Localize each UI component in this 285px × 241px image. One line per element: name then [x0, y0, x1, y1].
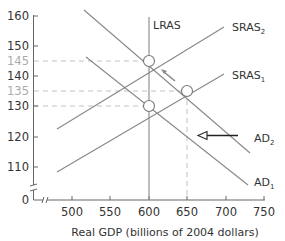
aggregate-supply-demand-chart: 160 150 145 140 135 130 120 110 0 500 55… — [0, 0, 285, 241]
x-tick-labels: 500 550 600 650 700 750 — [61, 205, 275, 219]
equilibrium-600-145 — [144, 56, 155, 67]
guide-lines — [34, 61, 187, 200]
label-lras: LRAS — [153, 19, 181, 32]
x-tick-650: 650 — [176, 205, 198, 219]
y-tick-labels: 160 150 145 140 135 130 120 110 0 — [7, 9, 29, 207]
y-tick-135: 135 — [7, 84, 29, 98]
x-tick-700: 700 — [215, 205, 237, 219]
equilibrium-650-135 — [182, 86, 193, 97]
y-tick-0: 0 — [22, 193, 29, 207]
sras1-line — [57, 74, 224, 172]
sras2-line — [57, 27, 224, 129]
label-sras2: SRAS2 — [232, 21, 265, 36]
y-tick-120: 120 — [7, 130, 29, 144]
y-tick-150: 150 — [7, 39, 29, 53]
label-sras1: SRAS1 — [232, 69, 265, 84]
hollow-arrowhead-icon — [198, 132, 207, 140]
shift-arrow — [198, 132, 238, 140]
y-tick-110: 110 — [7, 160, 29, 174]
x-tick-750: 750 — [253, 205, 275, 219]
label-ad2: AD2 — [254, 132, 274, 147]
x-tick-500: 500 — [61, 205, 83, 219]
ad1-line — [86, 57, 248, 185]
y-tick-130: 130 — [7, 99, 29, 113]
x-tick-550: 550 — [99, 205, 121, 219]
y-tick-145: 145 — [7, 54, 29, 68]
equilibrium-points — [144, 56, 193, 112]
y-tick-140: 140 — [7, 69, 29, 83]
movement-arrow — [161, 69, 175, 81]
equilibrium-600-130 — [144, 101, 155, 112]
x-tick-600: 600 — [138, 205, 160, 219]
y-tick-160: 160 — [7, 9, 29, 23]
x-axis-title: Real GDP (billions of 2004 dollars) — [71, 226, 258, 239]
label-ad1: AD1 — [254, 176, 274, 191]
